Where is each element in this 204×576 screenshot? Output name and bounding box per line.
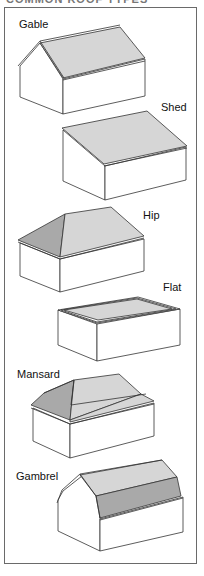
- label-mansard: Mansard: [17, 368, 60, 380]
- hip-roof-illustration: [18, 207, 144, 292]
- label-gable: Gable: [19, 18, 48, 30]
- gable-roof-illustration: [18, 25, 145, 114]
- gambrel-roof-illustration: [57, 460, 183, 551]
- label-flat: Flat: [163, 281, 181, 293]
- label-shed: Shed: [161, 101, 187, 113]
- label-gambrel: Gambrel: [16, 470, 58, 482]
- label-hip: Hip: [143, 209, 160, 221]
- mansard-roof-illustration: [31, 374, 154, 458]
- flat-roof-illustration: [58, 297, 180, 361]
- shed-roof-illustration: [62, 111, 187, 200]
